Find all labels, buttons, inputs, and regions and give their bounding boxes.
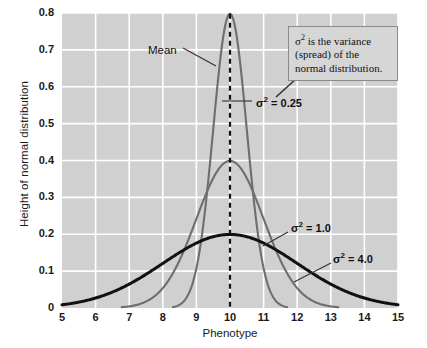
sigma-1-symbol: σ	[291, 222, 299, 234]
variance-callout-box: σ2 is the variance (spread) of the norma…	[288, 26, 398, 81]
x-tick-label: 7	[114, 311, 144, 323]
mean-leader-line	[183, 48, 216, 66]
x-tick-label: 12	[282, 311, 312, 323]
callout-text: is the variance (spread) of the normal d…	[295, 35, 382, 74]
sigma-025-symbol: σ	[256, 97, 264, 109]
sigma-4-annotation: σ2 = 4.0	[333, 251, 373, 265]
x-tick-label: 15	[383, 311, 413, 323]
x-axis-title: Phenotype	[62, 327, 398, 339]
sigma-4-symbol: σ	[333, 253, 341, 265]
y-tick-label: 0.8	[14, 6, 54, 18]
x-tick-label: 10	[215, 311, 245, 323]
sigma-1-annotation: σ2 = 1.0	[291, 220, 331, 234]
x-tick-label: 5	[47, 311, 77, 323]
sigma-1-value: = 1.0	[303, 222, 331, 234]
sigma-025-value: = 0.25	[268, 97, 302, 109]
sigma-4-value: = 4.0	[345, 253, 373, 265]
sigma-025-annotation: σ2 = 0.25	[256, 95, 302, 109]
x-tick-label: 14	[349, 311, 379, 323]
x-tick-label: 9	[181, 311, 211, 323]
x-tick-label: 6	[81, 311, 111, 323]
x-tick-label: 11	[249, 311, 279, 323]
y-axis-title: Height of normal distribution	[18, 34, 30, 274]
normal-distribution-figure: 00.10.20.30.40.50.60.70.8 56789101112131…	[0, 0, 427, 348]
annotation-leader-lines	[183, 48, 331, 282]
x-tick-label: 8	[148, 311, 178, 323]
mean-annotation-label: Mean	[148, 44, 177, 56]
x-tick-label: 13	[316, 311, 346, 323]
